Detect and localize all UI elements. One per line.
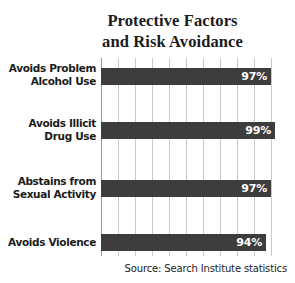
category-label-abstains-from-sexual-activity: Abstains from Sexual Activity	[6, 175, 96, 201]
chart-title-line-1: Protective Factors	[55, 10, 290, 31]
chart-title: Protective Factors and Risk Avoidance	[55, 10, 290, 52]
category-label-line: Avoids Problem	[6, 62, 96, 75]
gridline	[118, 58, 119, 256]
bar-avoids-violence: 94%	[101, 234, 266, 251]
gridline	[254, 58, 255, 256]
axis-line-y	[101, 58, 102, 256]
gridline	[271, 58, 272, 256]
bar-value-label: 99%	[245, 122, 271, 139]
gridline	[186, 58, 187, 256]
category-label-line: Avoids Illicit	[6, 117, 96, 130]
chart-figure: Protective Factors and Risk Avoidance Av…	[0, 0, 295, 283]
category-label-avoids-problem-alcohol-use: Avoids Problem Alcohol Use	[6, 62, 96, 88]
gridline	[220, 58, 221, 256]
category-label-line: Abstains from	[6, 175, 96, 188]
gridline	[152, 58, 153, 256]
bar-value-label: 94%	[236, 234, 262, 251]
bar-value-label: 97%	[241, 180, 267, 197]
bar-abstains-from-sexual-activity: 97%	[101, 180, 271, 197]
plot-area: 97% 99% 97% 94%	[101, 58, 277, 256]
category-label-line: Sexual Activity	[6, 188, 96, 201]
category-label-avoids-violence: Avoids Violence	[6, 236, 96, 249]
category-label-line: Drug Use	[6, 130, 96, 143]
gridline	[203, 58, 204, 256]
category-label-avoids-illicit-drug-use: Avoids Illicit Drug Use	[6, 117, 96, 143]
bar-avoids-illicit-drug-use: 99%	[101, 122, 275, 139]
category-label-line: Avoids Violence	[6, 236, 96, 249]
category-label-line: Alcohol Use	[6, 75, 96, 88]
gridline	[237, 58, 238, 256]
gridline	[135, 58, 136, 256]
bar-avoids-problem-alcohol-use: 97%	[101, 68, 271, 85]
source-note: Source: Search Institute statistics	[0, 263, 287, 274]
bar-value-label: 97%	[241, 68, 267, 85]
chart-title-line-2: and Risk Avoidance	[55, 31, 290, 52]
gridline	[169, 58, 170, 256]
